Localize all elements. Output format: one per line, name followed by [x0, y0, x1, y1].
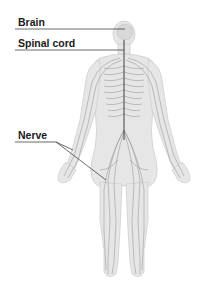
brain-shape — [117, 24, 133, 40]
spinal-cord-label: Spinal cord — [18, 38, 75, 49]
brain-label: Brain — [18, 17, 45, 28]
nerve-label: Nerve — [18, 130, 47, 141]
